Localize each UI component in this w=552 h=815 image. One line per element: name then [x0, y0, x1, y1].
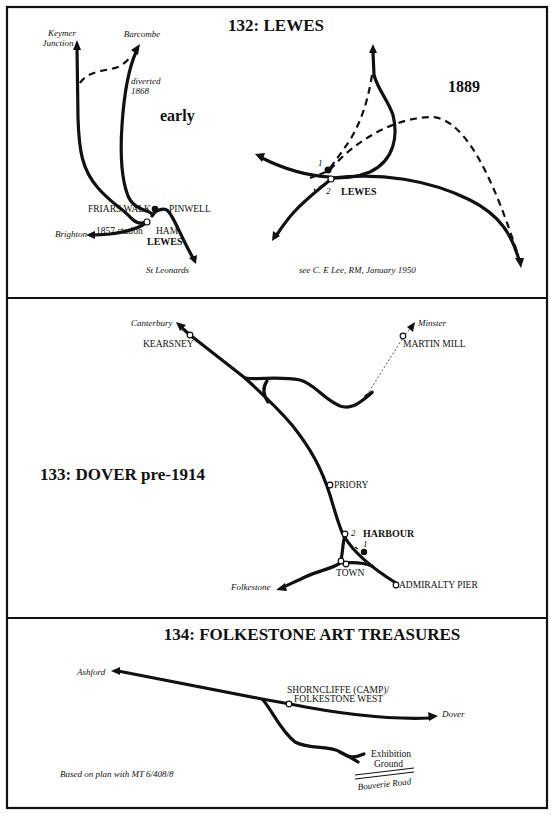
station-admiralty-pier [393, 582, 399, 588]
harbour-label-1: 1 [363, 539, 368, 549]
destination-label-ashford: Ashford [76, 667, 106, 677]
destination-label-barcombe: Barcombe [124, 29, 161, 39]
destination-label-minster: Minster [417, 318, 446, 328]
arrow-brighton [86, 231, 95, 239]
station-shorncliffe [286, 701, 292, 707]
station-label-martin-mill: MARTIN MILL [403, 339, 466, 349]
arrow-north [369, 44, 377, 53]
station-label-pinwell: PINWELL [169, 204, 211, 214]
station-label-kearsney: KEARSNEY [143, 339, 194, 349]
station-kearsney [187, 332, 193, 338]
panel-title: 133: DOVER pre-1914 [40, 465, 205, 484]
label-exhibition: Exhibition [371, 749, 411, 759]
arrow-dover [428, 712, 438, 721]
era-label-1889: 1889 [448, 78, 480, 95]
station-1857 [144, 219, 150, 225]
station-label-harbour: HARBOUR [363, 528, 415, 539]
platform-label-1: 1 [318, 158, 323, 168]
annotation-1868: 1868 [131, 86, 150, 96]
station-lewes-1 [325, 167, 332, 174]
station-harbour-2 [342, 531, 348, 537]
destination-label-brighton: Brighton [55, 229, 88, 239]
station-label-1857: 1857 station [96, 226, 143, 236]
panel-dover: 133: DOVER pre-1914 Canterbury KEARSNEY … [40, 318, 478, 592]
destination-label-keymer: Keymer [47, 28, 76, 38]
station-label-priory: PRIORY [334, 480, 368, 490]
track-keymer-line [77, 47, 146, 223]
lewes-early-diagram: Keymer Junction Barcombe diverted 1868 e… [43, 28, 211, 275]
arrow-west [255, 153, 265, 162]
station-priory [327, 482, 333, 488]
era-label-early: early [160, 107, 195, 125]
panel-title: 134: FOLKESTONE ART TREASURES [164, 625, 461, 644]
railway-diagrams: 132: LEWES Keymer Junction Barcombe dive… [0, 0, 552, 815]
station-friars-walk [152, 206, 159, 213]
station-town-b [343, 561, 349, 567]
station-label-admiralty-pier: ADMIRALTY PIER [399, 580, 478, 590]
destination-label-dover: Dover [441, 709, 465, 719]
station-label-town: TOWN [336, 568, 364, 578]
destination-label-folkestone: Folkestone [230, 582, 271, 592]
destination-label-junction: Junction [43, 38, 74, 48]
source-note-lewes: see C. E Lee, RM, January 1950 [299, 265, 416, 275]
track-folkestone-line [282, 535, 345, 588]
station-harbour-1 [361, 549, 367, 555]
panel-title: 132: LEWES [228, 16, 324, 35]
track-dashed-north [330, 75, 372, 168]
harbour-label-2: 2 [351, 528, 356, 538]
panel-lewes: 132: LEWES Keymer Junction Barcombe dive… [43, 16, 525, 275]
destination-label-st-leonards: St Leonards [146, 265, 189, 275]
station-martin-mill [400, 333, 406, 339]
lewes-1889-diagram: 1889 1 2 LEWES see C. E Lee, RM, January… [255, 44, 524, 275]
station-lewes-2 [328, 176, 334, 182]
track-triangle-curve [264, 381, 268, 402]
label-ground: Ground [374, 759, 403, 769]
track-original-route-dashed [80, 57, 130, 83]
destination-label-canterbury: Canterbury [131, 318, 173, 328]
source-note-folkestone: Based on plan with MT 6/408/8 [60, 769, 174, 779]
harbour-spur [355, 547, 358, 549]
track-southwest-line [276, 180, 330, 236]
platform-label-2: 2 [326, 186, 331, 196]
arrow-keymer [73, 40, 81, 50]
station-label-shorncliffe-2: FOLKESTONE WEST [294, 694, 383, 704]
station-label-friars-walk: FRIARS WALK [88, 204, 151, 214]
road-label-bouverie: Bouverie Road [357, 776, 412, 792]
station-label-ham: HAM [156, 226, 179, 236]
arrow-folkestone [276, 583, 287, 591]
station-label-lewes-1889: LEWES [341, 186, 377, 197]
annotation-diverted: diverted [131, 76, 161, 86]
panel-folkestone: 134: FOLKESTONE ART TREASURES Ashford Do… [60, 625, 465, 792]
station-label-lewes-early: LEWES [147, 236, 183, 247]
arrow-east [515, 258, 524, 268]
road-line-top [355, 768, 414, 775]
